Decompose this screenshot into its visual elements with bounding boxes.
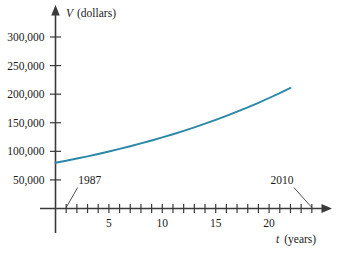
value-growth-chart: 50,000100,000150,000200,000250,000300,00… xyxy=(0,0,337,254)
x-axis xyxy=(40,204,332,213)
x-tick-label: 10 xyxy=(157,217,169,229)
y-axis-arrow-icon xyxy=(51,5,60,16)
annotation-leader-line xyxy=(66,187,77,207)
y-axis-title: V(dollars) xyxy=(66,7,116,20)
y-tick-label: 50,000 xyxy=(13,174,45,187)
x-axis-tick-labels: 5101520 xyxy=(106,217,275,229)
annotation-leader-line xyxy=(294,187,312,207)
y-axis xyxy=(51,5,60,233)
x-tick-label: 15 xyxy=(210,217,222,229)
x-axis-title: t(years) xyxy=(276,233,316,246)
x-axis-arrow-icon xyxy=(322,204,333,213)
y-tick-label: 100,000 xyxy=(7,145,45,158)
y-tick-label: 150,000 xyxy=(7,117,45,130)
y-tick-label: 250,000 xyxy=(7,60,45,73)
y-tick-label: 300,000 xyxy=(7,31,45,44)
chart-annotations: 19872010 xyxy=(66,174,312,207)
x-tick-label: 20 xyxy=(263,217,275,229)
y-tick-label: 200,000 xyxy=(7,88,45,101)
value-curve xyxy=(56,88,291,163)
annotation-label: 1987 xyxy=(78,174,101,186)
x-tick-label: 5 xyxy=(106,217,112,229)
annotation-label: 2010 xyxy=(270,174,293,186)
y-axis-ticks: 50,000100,000150,000200,000250,000300,00… xyxy=(7,31,61,187)
